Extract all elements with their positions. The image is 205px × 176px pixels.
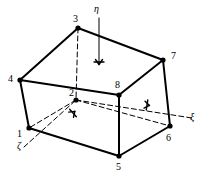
edge-8-7	[119, 60, 163, 95]
axis-arrow-wing-b-zeta	[73, 111, 74, 117]
axis-line-xi	[76, 100, 192, 118]
hidden-edge-2-1	[29, 100, 76, 128]
edge-4-1	[20, 80, 29, 128]
axis-label-eta: η	[94, 4, 99, 14]
node-point-6	[167, 123, 172, 128]
edge-1-5	[29, 128, 119, 156]
node-point-2	[73, 97, 78, 102]
node-point-4	[17, 77, 22, 82]
node-label-3: 3	[73, 14, 78, 24]
node-point-7	[160, 57, 165, 62]
hexahedron-diagram: 12345678ηξζ	[0, 0, 205, 176]
node-label-2: 2	[69, 88, 74, 98]
axis-arrow-xi	[144, 100, 149, 110]
axis-arrow-bar-zeta	[70, 109, 77, 116]
node-point-8	[116, 92, 121, 97]
axis-arrow-zeta	[69, 109, 77, 117]
hidden-edge-2-6	[76, 100, 170, 126]
node-label-5: 5	[116, 162, 121, 172]
edge-7-6	[163, 60, 170, 126]
axis-arrow-wing-a-zeta	[69, 111, 75, 112]
edge-3-7	[78, 28, 163, 60]
node-point-5	[116, 153, 121, 158]
node-label-7: 7	[171, 51, 176, 61]
axis-label-xi: ξ	[190, 112, 194, 122]
edge-5-6	[119, 126, 170, 156]
axis-label-zeta: ζ	[17, 141, 21, 151]
node-label-1: 1	[17, 129, 22, 139]
node-point-3	[75, 25, 80, 30]
node-point-1	[26, 125, 31, 130]
node-label-8: 8	[115, 80, 120, 90]
edge-4-3	[20, 28, 78, 80]
hexahedron-svg	[0, 0, 205, 176]
node-label-6: 6	[166, 133, 171, 143]
node-label-4: 4	[8, 74, 13, 84]
